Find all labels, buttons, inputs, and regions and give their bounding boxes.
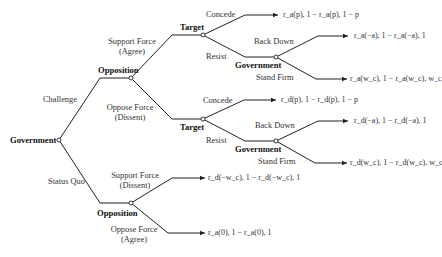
action-label-line-1: Support Force xyxy=(108,37,156,47)
action-label-stand-firm-top: Stand Firm xyxy=(256,73,293,83)
payoff-2: r_a(−a), 1 − r_a(−a), 1 xyxy=(354,31,426,40)
node-label-opposition-top: Opposition xyxy=(98,65,139,75)
action-label-line-1: Oppose Force xyxy=(107,103,154,113)
action-label-challenge: Challenge xyxy=(43,95,77,105)
node-label-government-root: Government xyxy=(10,135,56,145)
action-label-stand-firm-mid: Stand Firm xyxy=(258,157,295,167)
payoff-1: r_a(p), 1 − r_a(p), 1 − p xyxy=(283,10,359,19)
decision-node-opposition-bottom xyxy=(129,201,133,205)
action-label-concede-mid: Concede xyxy=(203,96,232,106)
action-label-line-2: (Agree) xyxy=(111,235,158,245)
node-label-target-mid: Target xyxy=(180,122,204,132)
node-label-government-top: Government xyxy=(235,60,281,70)
action-label-line-2: (Dissent) xyxy=(111,181,159,191)
decision-node-opposition-top xyxy=(129,76,133,80)
action-label-status-quo: Status Quo xyxy=(48,177,85,187)
action-label-line-1: Oppose Force xyxy=(111,225,158,235)
action-label-support-force-dissent: Support Force (Dissent) xyxy=(111,171,159,191)
decision-node-root xyxy=(57,138,61,142)
node-label-government-mid: Government xyxy=(235,144,281,154)
node-label-opposition-bottom: Opposition xyxy=(97,208,138,218)
action-label-line-2: (Dissent) xyxy=(107,113,154,123)
action-label-back-down-top: Back Down xyxy=(254,37,294,47)
payoff-5: r_d(−a), 1 − r_d(−a), 1 xyxy=(354,116,427,125)
decision-node-target-mid xyxy=(201,117,205,121)
payoff-4: r_d(p), 1 − r_d(p), 1 − p xyxy=(281,95,358,104)
action-label-line-2: (Agree) xyxy=(108,47,156,57)
node-label-target-top: Target xyxy=(180,22,204,32)
payoff-8: r_a(0), 1 − r_a(0), 1 xyxy=(208,228,272,237)
action-label-oppose-force-agree: Oppose Force (Agree) xyxy=(111,225,158,245)
action-label-back-down-mid: Back Down xyxy=(255,121,295,131)
decision-node-government-mid xyxy=(274,139,278,143)
action-label-resist-top: Resist xyxy=(206,52,226,62)
action-label-concede-top: Concede xyxy=(206,10,235,20)
payoff-3: r_a(w_c), 1 − r_a(w_c), w_c xyxy=(350,74,442,83)
payoff-7: r_d(−w_c), 1 − r_d(−w_c), 1 xyxy=(208,173,300,182)
decision-node-target-top xyxy=(201,33,205,37)
action-label-resist-mid: Resist xyxy=(206,136,226,146)
payoff-6: r_d(w_c), 1 − r_d(w_c), w_c xyxy=(350,158,442,167)
decision-node-government-top xyxy=(274,55,278,59)
action-label-support-force-agree: Support Force (Agree) xyxy=(108,37,156,57)
action-label-oppose-force-dissent: Oppose Force (Dissent) xyxy=(107,103,154,123)
action-label-line-1: Support Force xyxy=(111,171,159,181)
